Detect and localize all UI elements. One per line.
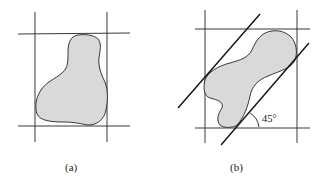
panel-b-angle-label: 45° — [262, 113, 277, 124]
panel-a: (a) — [18, 12, 130, 174]
panel-b: 45° (b) — [178, 10, 310, 174]
panel-a-blob-shape — [36, 35, 108, 125]
panel-b-label: (b) — [230, 161, 243, 174]
figure-canvas: (a) 45° (b) — [0, 0, 329, 181]
panel-b-angle-arc — [250, 113, 259, 127]
panel-a-label: (a) — [65, 161, 78, 174]
